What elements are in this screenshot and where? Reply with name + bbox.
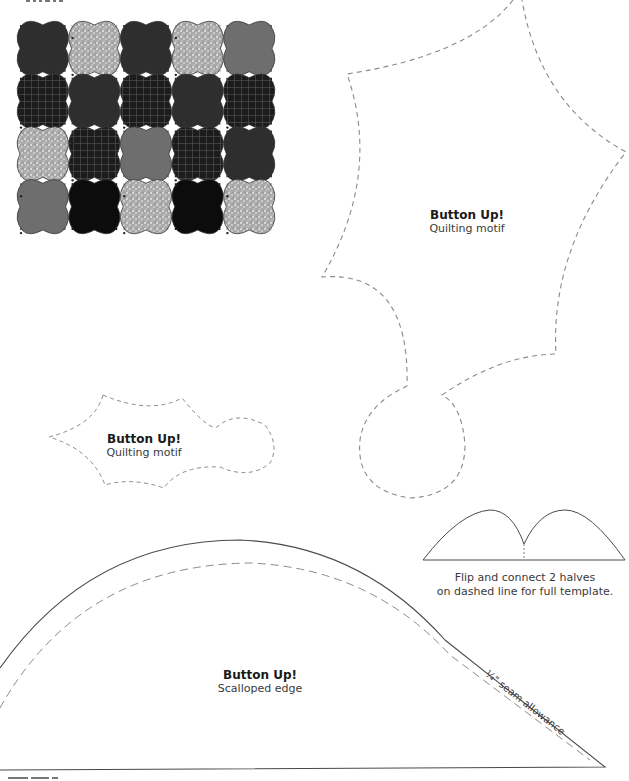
scalloped-edge-subtitle: Scalloped edge xyxy=(200,682,320,696)
small-motif-subtitle: Quilting motif xyxy=(94,446,194,460)
small-motif-label: Button Up! Quilting motif xyxy=(94,432,194,460)
scalloped-edge-label: Button Up! Scalloped edge xyxy=(200,668,320,696)
half-template-note-line1: Flip and connect 2 halves xyxy=(410,571,629,585)
cropped-text-top xyxy=(26,0,116,4)
half-template-note: Flip and connect 2 halves on dashed line… xyxy=(410,571,629,599)
small-motif-title: Button Up! xyxy=(94,432,194,446)
cropped-text-bottom xyxy=(8,777,98,781)
large-motif-outline xyxy=(322,0,626,498)
large-motif-label: Button Up! Quilting motif xyxy=(407,208,527,236)
half-template-note-line2: on dashed line for full template. xyxy=(410,585,629,599)
scalloped-edge-title: Button Up! xyxy=(200,668,320,682)
large-motif-title: Button Up! xyxy=(407,208,527,222)
templates-art xyxy=(0,0,629,781)
large-motif-subtitle: Quilting motif xyxy=(407,222,527,236)
